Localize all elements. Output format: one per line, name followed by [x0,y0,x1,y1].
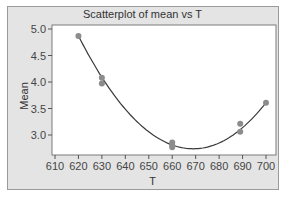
x-tick-label: 670 [186,160,204,172]
y-tick-label: 4.5 [31,50,46,62]
y-tick-label: 5.0 [31,23,46,35]
y-tick-label: 3.5 [31,103,46,115]
data-point [99,75,105,81]
x-tick-label: 610 [46,160,64,172]
data-point [75,33,81,39]
data-point [263,100,269,106]
data-point [169,144,175,150]
x-tick-label: 680 [210,160,228,172]
y-tick-label: 3.0 [31,129,46,141]
data-point [99,81,105,87]
x-tick-label: 620 [69,160,87,172]
x-tick-label: 690 [233,160,251,172]
x-tick-label: 640 [116,160,134,172]
x-tick-label: 700 [257,160,275,172]
data-point [237,129,243,135]
scatter-plot: 3.03.54.04.55.06106206306406506606706806… [0,0,285,199]
x-tick-label: 660 [163,160,181,172]
x-tick-label: 630 [93,160,111,172]
x-tick-label: 650 [140,160,158,172]
y-tick-label: 4.0 [31,76,46,88]
plot-area [52,25,276,155]
data-point [237,121,243,127]
